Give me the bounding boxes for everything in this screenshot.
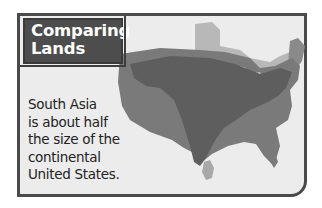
caption-line: continental [28,149,128,167]
caption-line: is about half [28,114,128,132]
sri-lanka [202,160,214,180]
caption-line: South Asia [28,96,128,114]
title-box: Comparing Lands [23,18,123,64]
caption-text: South Asia is about half the size of the… [28,96,128,184]
comparing-lands-panel: Comparing Lands South Asia is about half… [17,13,307,197]
title-line-1: Comparing [31,22,121,40]
caption-line: United States. [28,166,128,184]
title-vertical-divider [124,16,126,67]
caption-line: the size of the [28,131,128,149]
title-divider [20,65,124,67]
map-illustration [100,16,310,194]
title-line-2: Lands [31,40,121,58]
